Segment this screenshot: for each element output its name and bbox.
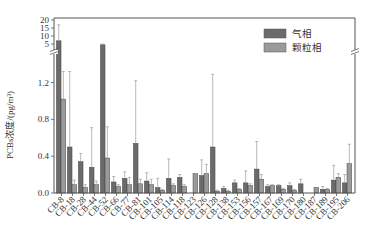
y-tick-label: 0.8: [38, 114, 50, 124]
bar-gas: [177, 177, 182, 193]
bar-gas: [265, 187, 270, 193]
bar-gas: [78, 162, 83, 193]
bar-gas: [298, 184, 303, 193]
y-tick-label: 0.4: [38, 151, 50, 161]
legend-label: 颗粒相: [292, 42, 322, 53]
bar-particle: [138, 184, 143, 193]
legend: 气相颗粒相: [264, 28, 322, 53]
bar-gas: [67, 147, 72, 193]
bar-particle: [347, 164, 352, 193]
bar-gas: [342, 183, 347, 193]
bar-particle: [281, 189, 286, 193]
bar-gas: [56, 41, 61, 193]
y-axis-label: PCBs浓度/(pg/m³): [4, 91, 15, 159]
bar-gas: [276, 186, 281, 193]
bar-particle: [259, 179, 264, 193]
bar-gas: [100, 45, 105, 193]
bar-particle: [325, 189, 330, 193]
bar-particle: [83, 187, 88, 193]
bar-gas: [144, 181, 149, 193]
bar-gas: [320, 189, 325, 193]
bar-gas: [221, 188, 226, 193]
bar-gas: [166, 178, 171, 193]
bar-gas: [254, 169, 259, 193]
bar-particle: [105, 158, 110, 193]
bar-particle: [204, 174, 209, 193]
bar-chart: 0.00.40.81.25101520CB-8CB-18CB-28CB-44CB…: [0, 0, 373, 244]
bar-gas: [133, 143, 138, 193]
bar-gas: [232, 183, 237, 193]
bar-gas: [210, 147, 215, 193]
bar-gas: [89, 167, 94, 193]
legend-swatch: [264, 43, 286, 52]
bar-particle: [171, 186, 176, 193]
bar-particle: [270, 186, 275, 193]
y-tick-label: 0.0: [38, 188, 50, 198]
bar-gas: [199, 176, 204, 193]
bar-particle: [72, 185, 77, 193]
bar-particle: [149, 185, 154, 193]
y-tick-label: 1.2: [38, 78, 49, 88]
bar-gas: [111, 182, 116, 193]
bar-gas: [243, 183, 248, 193]
bar-particle: [94, 185, 99, 193]
legend-swatch: [264, 29, 286, 38]
bar-particle: [336, 177, 341, 193]
bar-particle: [314, 187, 319, 193]
bar-gas: [287, 186, 292, 193]
bar-particle: [61, 99, 66, 193]
bar-gas: [122, 178, 127, 193]
bar-particle: [237, 189, 242, 193]
bar-particle: [127, 185, 132, 193]
bar-gas: [331, 180, 336, 193]
legend-label: 气相: [292, 28, 312, 39]
bar-gas: [155, 187, 160, 193]
bar-particle: [248, 186, 253, 193]
y-tick-label: 20: [40, 15, 50, 25]
bar-particle: [193, 174, 198, 193]
bar-particle: [116, 187, 121, 193]
bar-particle: [182, 187, 187, 193]
